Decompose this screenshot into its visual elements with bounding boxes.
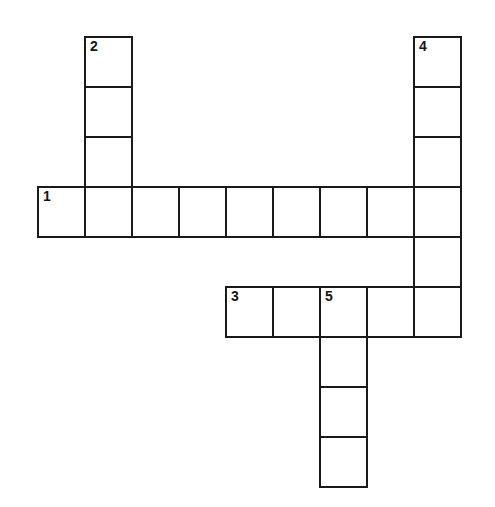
crossword-cell[interactable]	[366, 286, 415, 338]
crossword-cell[interactable]	[84, 186, 133, 238]
crossword-puzzle: 24135	[0, 0, 495, 507]
crossword-cell[interactable]	[413, 236, 462, 288]
crossword-cell[interactable]	[319, 386, 368, 438]
crossword-cell[interactable]	[413, 286, 462, 338]
crossword-cell[interactable]	[366, 186, 415, 238]
cell-number-1: 1	[43, 189, 51, 204]
crossword-cell[interactable]	[272, 286, 321, 338]
crossword-cell[interactable]	[413, 86, 462, 138]
crossword-cell[interactable]	[272, 186, 321, 238]
cell-number-4: 4	[419, 39, 427, 54]
crossword-cell[interactable]	[319, 186, 368, 238]
crossword-cell[interactable]	[319, 336, 368, 388]
crossword-cell[interactable]: 3	[225, 286, 274, 338]
crossword-cell[interactable]	[413, 136, 462, 188]
cell-number-5: 5	[325, 289, 333, 304]
crossword-cell[interactable]	[84, 86, 133, 138]
crossword-grid: 24135	[0, 0, 495, 507]
crossword-cell[interactable]	[319, 436, 368, 488]
crossword-cell[interactable]	[413, 186, 462, 238]
crossword-cell[interactable]	[225, 186, 274, 238]
crossword-cell[interactable]: 2	[84, 36, 133, 88]
crossword-cell[interactable]	[131, 186, 180, 238]
cell-number-3: 3	[231, 289, 239, 304]
crossword-cell[interactable]: 1	[37, 186, 86, 238]
crossword-cell[interactable]: 4	[413, 36, 462, 88]
crossword-cell[interactable]	[178, 186, 227, 238]
crossword-cell[interactable]	[84, 136, 133, 188]
cell-number-2: 2	[90, 39, 98, 54]
crossword-cell[interactable]: 5	[319, 286, 368, 338]
